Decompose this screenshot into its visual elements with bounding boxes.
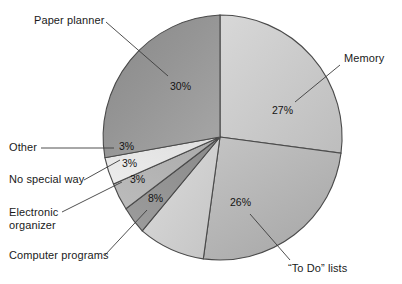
pie-slices — [103, 15, 342, 260]
label-electronic-organizer-line1: Electronic — [9, 206, 58, 219]
label-todo-lists: “To Do” lists — [288, 262, 347, 275]
value-memory: 27% — [272, 104, 293, 116]
value-electronic-organizer: 3% — [130, 173, 145, 185]
label-paper-planner: Paper planner — [34, 14, 104, 27]
value-todo-lists: 26% — [230, 196, 251, 208]
value-no-special-way: 3% — [122, 157, 137, 169]
label-no-special-way: No special way — [9, 173, 84, 186]
pie-chart-figure: Paper planner Memory “To Do” lists Compu… — [0, 0, 402, 284]
label-memory: Memory — [344, 52, 384, 65]
label-other: Other — [9, 141, 37, 154]
pie-chart-svg — [0, 0, 402, 284]
pie-slice-todo-lists[interactable] — [203, 137, 341, 260]
label-electronic-organizer-line2: organizer — [9, 219, 56, 232]
leader-line-electronic-organizer — [62, 182, 122, 212]
value-paper-planner: 30% — [170, 80, 191, 92]
pie-slice-paper-planner[interactable] — [103, 15, 220, 158]
pie-slice-memory[interactable] — [220, 15, 342, 153]
value-other: 3% — [119, 140, 134, 152]
value-computer-programs: 8% — [148, 192, 163, 204]
leader-line-computer-programs — [105, 210, 147, 255]
label-computer-programs: Computer programs — [9, 249, 109, 262]
